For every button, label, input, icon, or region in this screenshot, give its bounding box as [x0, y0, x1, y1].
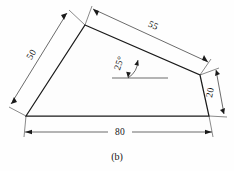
arrow-right-bottom: [220, 108, 225, 114]
figure-caption: (b): [111, 151, 123, 163]
ext-line-bottom-right: [209, 116, 213, 137]
ext-line-left-top: [69, 10, 85, 25]
dim-label-right-20: 20: [204, 87, 216, 99]
arrow-top-start: [93, 9, 99, 16]
dim-label-top-55: 55: [147, 19, 160, 32]
dim-line-right-20: [216, 70, 224, 114]
arrow-left-bottom: [11, 97, 17, 104]
arrow-left-top: [61, 13, 67, 20]
ext-line-right-bottom: [209, 116, 227, 117]
arrow-bottom-right: [205, 130, 212, 135]
dim-label-bottom-80: 80: [115, 127, 125, 137]
ext-line-left-bottom: [9, 107, 26, 116]
ext-line-top-start: [85, 6, 92, 25]
figure-svg: 50 55 20 80 25° (b): [0, 0, 234, 171]
arrow-right-top: [215, 70, 220, 76]
arrow-top-end: [202, 55, 208, 62]
dim-label-left-50: 50: [25, 48, 39, 62]
ext-line-bottom-left: [24, 116, 26, 137]
technical-drawing-canvas: 50 55 20 80 25° (b): [0, 0, 234, 171]
arrow-bottom-left: [25, 130, 32, 135]
ext-line-top-end: [200, 59, 211, 75]
